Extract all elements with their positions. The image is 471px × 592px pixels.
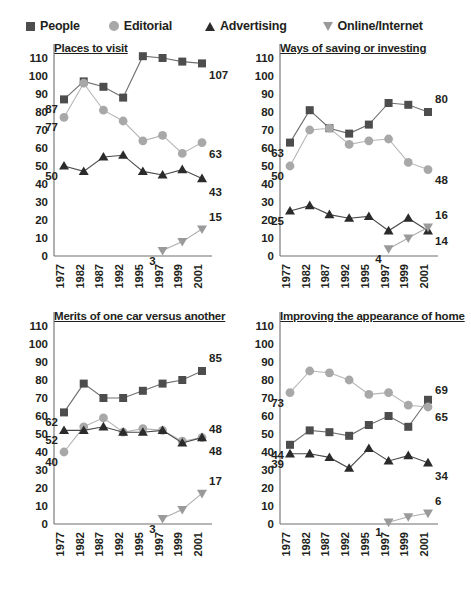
svg-text:0: 0 (268, 250, 274, 262)
svg-text:40: 40 (45, 456, 58, 468)
svg-text:15: 15 (209, 211, 222, 223)
svg-text:50: 50 (45, 170, 58, 182)
chart-plot-area: 0102030405060708090100110197719821987199… (14, 310, 236, 562)
svg-text:1987: 1987 (319, 532, 331, 556)
svg-text:1982: 1982 (74, 532, 86, 556)
svg-text:34: 34 (435, 470, 448, 482)
svg-text:100: 100 (255, 338, 274, 350)
svg-text:10: 10 (261, 232, 274, 244)
svg-text:39: 39 (271, 458, 284, 470)
svg-text:10: 10 (35, 500, 48, 512)
svg-text:85: 85 (209, 352, 222, 364)
chart-panel-places-to-visit: Places to visit 010203040506070809010011… (14, 42, 236, 294)
legend-item-editorial: Editorial (109, 19, 172, 33)
svg-text:65: 65 (435, 411, 448, 423)
svg-text:63: 63 (271, 147, 284, 159)
svg-text:4: 4 (375, 253, 382, 265)
triangle-down-marker-icon (323, 22, 333, 31)
svg-text:1977: 1977 (280, 264, 292, 288)
svg-text:30: 30 (261, 196, 274, 208)
chart-panel-improving-the-appearance-of-home: Improving the appearance of home 0102030… (240, 310, 462, 562)
svg-text:100: 100 (29, 338, 48, 350)
svg-text:110: 110 (29, 320, 48, 332)
svg-text:1999: 1999 (172, 264, 184, 288)
svg-text:2001: 2001 (418, 532, 430, 556)
svg-text:1982: 1982 (74, 264, 86, 288)
svg-text:60: 60 (35, 142, 48, 154)
legend-item-online-internet: Online/Internet (323, 19, 423, 33)
svg-text:1992: 1992 (339, 532, 351, 556)
svg-text:1982: 1982 (300, 264, 312, 288)
legend-label: Editorial (124, 19, 172, 33)
svg-text:110: 110 (255, 320, 274, 332)
svg-text:1992: 1992 (113, 532, 125, 556)
svg-text:63: 63 (209, 148, 222, 160)
svg-text:1987: 1987 (93, 532, 105, 556)
svg-text:1992: 1992 (113, 264, 125, 288)
triangle-up-marker-icon (205, 22, 215, 31)
svg-text:10: 10 (35, 232, 48, 244)
legend-label: Advertising (220, 19, 287, 33)
svg-text:30: 30 (35, 196, 48, 208)
legend-item-people: People (26, 19, 80, 33)
chart-plot-area: 0102030405060708090100110197719821987199… (14, 42, 236, 294)
svg-text:90: 90 (35, 88, 48, 100)
svg-text:1995: 1995 (359, 264, 371, 288)
svg-text:0: 0 (42, 250, 48, 262)
svg-text:80: 80 (261, 374, 274, 386)
svg-text:80: 80 (435, 93, 448, 105)
svg-text:90: 90 (35, 356, 48, 368)
svg-text:1987: 1987 (93, 264, 105, 288)
svg-text:69: 69 (435, 384, 448, 396)
svg-text:1999: 1999 (172, 532, 184, 556)
svg-text:73: 73 (271, 397, 284, 409)
svg-text:1999: 1999 (398, 532, 410, 556)
svg-text:1995: 1995 (359, 532, 371, 556)
svg-text:2001: 2001 (192, 532, 204, 556)
svg-text:1999: 1999 (398, 264, 410, 288)
svg-text:1977: 1977 (280, 532, 292, 556)
circle-marker-icon (109, 21, 119, 31)
svg-text:48: 48 (209, 423, 222, 435)
svg-text:90: 90 (261, 88, 274, 100)
svg-text:100: 100 (29, 70, 48, 82)
svg-text:80: 80 (261, 106, 274, 118)
chart-panel-merits-of-one-car-versus-another: Merits of one car versus another 0102030… (14, 310, 236, 562)
svg-text:1995: 1995 (133, 532, 145, 556)
svg-text:6: 6 (435, 495, 441, 507)
svg-text:25: 25 (271, 215, 284, 227)
svg-text:87: 87 (45, 103, 58, 115)
svg-text:50: 50 (261, 428, 274, 440)
svg-text:52: 52 (45, 434, 58, 446)
svg-text:110: 110 (29, 52, 48, 64)
svg-text:1987: 1987 (319, 264, 331, 288)
svg-text:62: 62 (45, 416, 58, 428)
svg-text:3: 3 (149, 255, 155, 267)
svg-text:1997: 1997 (379, 264, 391, 288)
legend: People Editorial Advertising Online/Inte… (0, 14, 471, 38)
legend-label: Online/Internet (338, 19, 423, 33)
svg-text:48: 48 (435, 174, 448, 186)
svg-text:1992: 1992 (339, 264, 351, 288)
svg-text:80: 80 (35, 374, 48, 386)
svg-text:90: 90 (261, 356, 274, 368)
svg-text:20: 20 (261, 482, 274, 494)
svg-text:20: 20 (35, 482, 48, 494)
svg-text:1997: 1997 (153, 532, 165, 556)
svg-text:100: 100 (255, 70, 274, 82)
svg-text:2001: 2001 (418, 264, 430, 288)
svg-text:110: 110 (255, 52, 274, 64)
svg-text:16: 16 (435, 209, 448, 221)
svg-text:1995: 1995 (133, 264, 145, 288)
svg-text:2001: 2001 (192, 264, 204, 288)
svg-text:1977: 1977 (54, 532, 66, 556)
square-marker-icon (26, 22, 35, 31)
svg-text:70: 70 (35, 392, 48, 404)
svg-text:60: 60 (261, 410, 274, 422)
chart-plot-area: 0102030405060708090100110197719821987199… (240, 42, 462, 294)
svg-text:107: 107 (209, 69, 228, 81)
svg-text:1982: 1982 (300, 532, 312, 556)
svg-text:20: 20 (35, 214, 48, 226)
svg-text:0: 0 (42, 518, 48, 530)
svg-text:1997: 1997 (153, 264, 165, 288)
